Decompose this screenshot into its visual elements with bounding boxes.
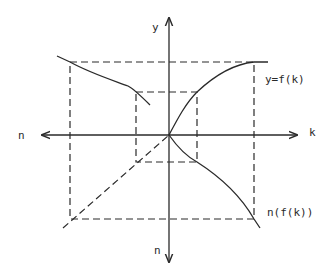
axis-label-n-left: n [18,130,25,141]
axis-label-n-bottom: n [154,245,161,256]
axis-label-y: y [152,22,159,33]
diagonal-45-degree-line [63,135,169,228]
curve-label-composite-function: n(f(k)) [267,207,313,218]
diagram-svg [0,0,329,277]
production-function-curve [169,62,268,135]
composite-function-curve [169,135,260,228]
axis-label-k: k [309,127,316,138]
four-quadrant-diagram: y n k n y=f(k) n(f(k)) [0,0,329,277]
curve-label-production-function: y=f(k) [265,74,305,85]
